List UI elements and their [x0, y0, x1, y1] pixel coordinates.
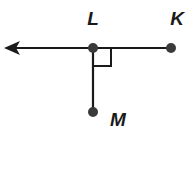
label-l: L	[87, 8, 99, 29]
point-l	[88, 43, 98, 53]
point-k	[166, 43, 176, 53]
point-m	[88, 107, 98, 117]
geometry-diagram: L K M	[0, 0, 196, 178]
label-k: K	[170, 8, 185, 29]
label-m: M	[110, 109, 127, 130]
